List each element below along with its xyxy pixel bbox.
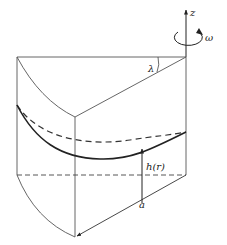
free-surface-curve [17, 105, 186, 159]
height-label: h(r) [146, 161, 165, 172]
z-axis-label: z [189, 7, 196, 18]
wedge-diagram: z ω λ a h(r) [0, 0, 227, 245]
radius-arrow [77, 175, 186, 236]
initial-level-curve [17, 105, 186, 142]
lambda-label: λ [147, 63, 154, 74]
rotation-arrow-icon [174, 28, 203, 45]
wedge-outline [17, 57, 186, 237]
omega-label: ω [205, 32, 213, 43]
angle-arc [157, 57, 159, 72]
